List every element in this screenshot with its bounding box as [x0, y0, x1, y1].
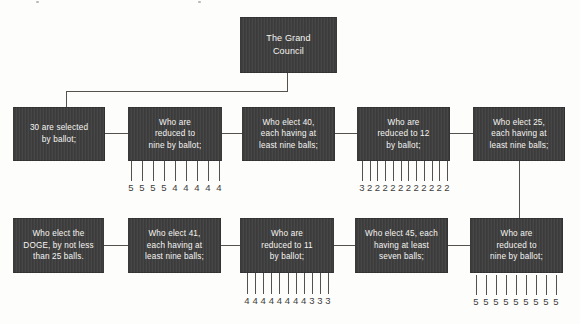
page-artifact — [36, 1, 39, 3]
ballot-tick — [304, 273, 305, 294]
node-elect-41: Who elect 41, each having at least nine … — [128, 218, 221, 273]
ballot-tick — [377, 161, 378, 181]
ballot-tick — [536, 275, 537, 295]
ballot-count: 5 — [493, 297, 498, 307]
ballot-count: 4 — [293, 296, 298, 306]
node-label: Who are reduced to 12 by ballot; — [377, 117, 429, 152]
ballot-tick — [164, 161, 165, 181]
node-elect-40: Who elect 40, each having at least nine … — [242, 107, 335, 161]
node-label: The Grand Council — [266, 32, 310, 58]
ballot-count: 5 — [139, 183, 144, 193]
ballot-count: 4 — [216, 183, 221, 193]
ballot-count: 4 — [244, 296, 249, 306]
connector-r1-1 — [105, 133, 128, 134]
node-elect-doge: Who elect the DOGE, by not less than 25 … — [13, 218, 104, 273]
node-reduced-to-12: Who are reduced to 12 by ballot; — [357, 107, 450, 161]
ballot-tick — [186, 161, 187, 181]
ballot-count: 2 — [437, 183, 442, 193]
node-label: Who elect 41, each having at least nine … — [145, 228, 204, 263]
connector-r1-3 — [335, 133, 357, 134]
node-reduced-to-nine-2: Who are reduced to nine by ballot; — [470, 218, 563, 273]
node-label: Who elect 40, each having at least nine … — [259, 117, 318, 152]
node-label: 30 are selected by ballot; — [30, 122, 88, 145]
connector-council-drop — [287, 73, 288, 91]
ballot-count: 4 — [205, 183, 210, 193]
ballot-count: 2 — [390, 183, 395, 193]
ballot-tick — [506, 275, 507, 295]
ballot-count: 4 — [301, 296, 306, 306]
ballot-tick — [416, 161, 417, 181]
ballot-tick — [296, 273, 297, 294]
ballot-tick — [320, 273, 321, 294]
connector-r2-3 — [334, 245, 355, 246]
connector-r2-2 — [221, 245, 240, 246]
ballot-tick — [408, 161, 409, 181]
ballot-count: 3 — [359, 183, 364, 193]
ballot-count: 2 — [429, 183, 434, 193]
ballot-tick — [432, 161, 433, 181]
ballot-tick — [263, 273, 264, 294]
ballot-tick — [496, 275, 497, 295]
ballot-tick — [312, 273, 313, 294]
ballot-tick — [385, 161, 386, 181]
ballot-count: 2 — [398, 183, 403, 193]
ballot-tick — [328, 273, 329, 294]
ballot-tick — [271, 273, 272, 294]
node-label: Who are reduced to nine by ballot; — [490, 228, 543, 263]
ballot-tick — [486, 275, 487, 295]
ballot-count: 5 — [523, 297, 528, 307]
ballot-tick — [401, 161, 402, 181]
ballot-count: 4 — [261, 296, 266, 306]
node-grand-council: The Grand Council — [240, 17, 337, 73]
ballot-tick — [516, 275, 517, 295]
node-elect-25: Who elect 25, each having at least nine … — [473, 107, 565, 161]
ballot-count: 5 — [533, 297, 538, 307]
ballot-tick — [546, 275, 547, 295]
connector-council-horizontal — [66, 91, 288, 92]
ballot-count: 2 — [375, 183, 380, 193]
node-label: Who are reduced to 11 by ballot; — [261, 228, 312, 263]
ballot-tick — [247, 273, 248, 294]
node-label: Who elect 45, each having at least seven… — [365, 228, 438, 263]
connector-council-to-first — [66, 91, 67, 107]
connector-r1-2 — [222, 133, 242, 134]
ballot-tick — [476, 275, 477, 295]
ballot-count: 4 — [252, 296, 257, 306]
ballot-tick — [288, 273, 289, 294]
ballot-tick — [279, 273, 280, 294]
ballot-tick — [526, 275, 527, 295]
ballot-count: 4 — [172, 183, 177, 193]
ballot-tick — [424, 161, 425, 181]
ballot-count: 5 — [513, 297, 518, 307]
doge-election-diagram: The Grand Council 30 are selected by bal… — [0, 0, 580, 324]
ballot-tick — [197, 161, 198, 181]
ballot-count: 4 — [269, 296, 274, 306]
node-reduced-to-nine-1: Who are reduced to nine by ballot; — [128, 107, 222, 161]
node-label: Who elect the DOGE, by not less than 25 … — [23, 228, 93, 263]
node-reduced-to-11: Who are reduced to 11 by ballot; — [240, 218, 334, 273]
ballot-count: 3 — [309, 296, 314, 306]
connector-r2-1 — [104, 245, 128, 246]
node-label: Who are reduced to nine by ballot; — [149, 117, 202, 152]
ballot-count: 2 — [367, 183, 372, 193]
ballot-count: 4 — [183, 183, 188, 193]
ballot-count: 5 — [553, 297, 558, 307]
ballot-tick — [175, 161, 176, 181]
ballot-tick — [370, 161, 371, 181]
ballot-tick — [131, 161, 132, 181]
ballot-tick — [208, 161, 209, 181]
ballot-tick — [153, 161, 154, 181]
page-artifact — [198, 1, 201, 3]
ballot-tick — [393, 161, 394, 181]
ballot-count: 5 — [161, 183, 166, 193]
ballot-tick — [362, 161, 363, 181]
ballot-count: 3 — [317, 296, 322, 306]
ballot-tick — [556, 275, 557, 295]
node-label: Who elect 25, each having at least nine … — [490, 117, 549, 152]
ballot-count: 2 — [383, 183, 388, 193]
connector-r2-4 — [448, 245, 470, 246]
ballot-count: 5 — [483, 297, 488, 307]
ballot-count: 5 — [473, 297, 478, 307]
ballot-tick — [219, 161, 220, 181]
ballot-count: 2 — [421, 183, 426, 193]
